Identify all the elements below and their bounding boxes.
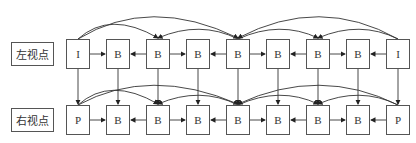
right-frame-3: B: [186, 105, 210, 135]
left-frame-8: I: [386, 39, 410, 69]
left-frame-5: B: [266, 39, 290, 69]
right-frame-8: P: [386, 105, 410, 135]
right-frame-7: B: [346, 105, 370, 135]
stereo-prediction-diagram: 左视点 右视点 I B B B B B B B I P B B B B B B …: [0, 0, 416, 143]
left-frame-0: I: [66, 39, 90, 69]
right-view-label: 右视点: [11, 108, 54, 132]
right-frame-0: P: [66, 105, 90, 135]
right-frame-1: B: [106, 105, 130, 135]
left-frame-4: B: [226, 39, 250, 69]
right-frame-6: B: [306, 105, 330, 135]
right-frame-5: B: [266, 105, 290, 135]
right-frame-4: B: [226, 105, 250, 135]
left-frame-3: B: [186, 39, 210, 69]
left-frame-1: B: [106, 39, 130, 69]
left-frame-2: B: [146, 39, 170, 69]
left-view-label: 左视点: [11, 42, 54, 66]
left-frame-6: B: [306, 39, 330, 69]
left-frame-7: B: [346, 39, 370, 69]
right-frame-2: B: [146, 105, 170, 135]
